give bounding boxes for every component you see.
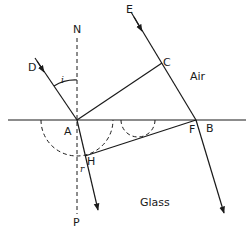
angle-i-arc	[54, 80, 77, 86]
label-n: N	[73, 23, 81, 36]
label-angle-r: r	[80, 164, 85, 174]
label-e: E	[126, 3, 133, 16]
label-a: A	[64, 125, 72, 138]
label-f: F	[189, 123, 195, 136]
wavefront-ac	[77, 63, 162, 120]
label-air: Air	[190, 70, 206, 83]
label-d: D	[28, 61, 36, 74]
refraction-diagram: N P A B C D E F H i r Air Glass	[0, 0, 252, 230]
label-angle-i: i	[61, 75, 64, 85]
diagram-svg: N P A B C D E F H i r Air Glass	[0, 0, 252, 230]
arrow-e-icon	[134, 17, 142, 31]
label-b: B	[206, 122, 214, 135]
label-glass: Glass	[140, 196, 170, 209]
wavefront-hf	[85, 120, 196, 156]
arrow-d-icon	[37, 61, 44, 72]
label-p: P	[73, 216, 80, 229]
label-h: H	[87, 155, 95, 168]
label-c: C	[163, 56, 171, 69]
